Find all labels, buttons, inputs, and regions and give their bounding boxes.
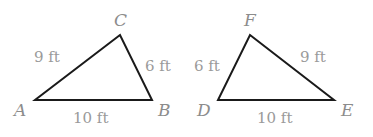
triangle-abc-outline [35,35,152,100]
side-ab-length: 10 ft [73,109,108,127]
triangle-def-outline [218,35,334,100]
vertex-d-label: D [196,100,211,120]
vertex-e-label: E [340,100,354,120]
vertex-a-label: A [12,100,26,120]
side-ac-length: 9 ft [34,48,60,66]
triangle-def: F D E 6 ft 9 ft 10 ft [194,10,354,127]
side-de-length: 10 ft [257,109,292,127]
vertex-c-label: C [114,10,127,30]
vertex-f-label: F [243,10,257,30]
triangle-abc: C A B 9 ft 6 ft 10 ft [12,10,171,127]
side-fe-length: 9 ft [300,48,326,66]
vertex-b-label: B [157,100,171,120]
side-df-length: 6 ft [194,57,220,75]
side-cb-length: 6 ft [145,57,171,75]
congruent-triangles-diagram: C A B 9 ft 6 ft 10 ft F D E 6 ft 9 ft 10… [0,0,373,137]
